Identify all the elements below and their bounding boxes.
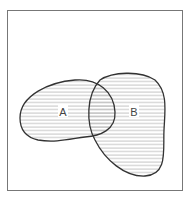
venn-diagram: A B bbox=[0, 0, 191, 197]
set-a-label: A bbox=[59, 106, 67, 118]
set-b-label: B bbox=[130, 106, 137, 118]
